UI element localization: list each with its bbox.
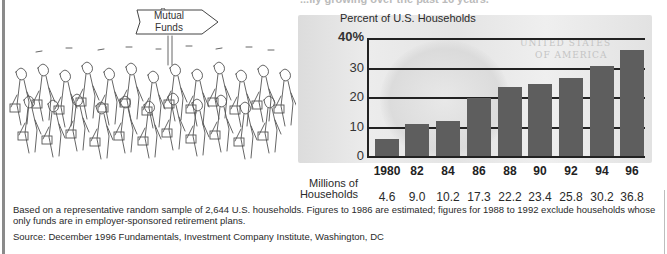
households-label-line2: Households [292, 189, 358, 200]
x-label-92: 92 [556, 164, 586, 178]
households-value-82: 9.0 [402, 190, 432, 204]
x-label-86: 86 [464, 164, 494, 178]
x-label-88: 88 [495, 164, 525, 178]
y-tick-0: 0 [330, 148, 364, 163]
source-citation: Source: December 1996 Fundamentals, Inve… [13, 231, 384, 242]
y-tick-40: 40% [330, 29, 364, 44]
partial-headline: ...ily growing over the past 16 years. [300, 0, 489, 5]
bar-96 [620, 50, 644, 157]
households-value-84: 10.2 [433, 190, 463, 204]
bar-88 [498, 87, 522, 157]
gridline-40 [368, 38, 645, 40]
y-tick-20: 20 [330, 89, 364, 104]
footnote-text: Based on a representative random sample … [13, 204, 658, 226]
bar-90 [528, 84, 552, 157]
x-label-90: 90 [525, 164, 555, 178]
sign-label-line1: Mutual [134, 10, 204, 22]
bill-text-line2: OF AMERICA [535, 50, 608, 60]
households-value-86: 17.3 [464, 190, 494, 204]
sign-label-line2: Funds [134, 22, 204, 34]
bar-94 [590, 66, 614, 157]
households-value-90: 23.4 [525, 190, 555, 204]
y-tick-10: 10 [330, 119, 364, 134]
bar-1980 [375, 139, 399, 157]
households-value-1980: 4.6 [372, 190, 402, 204]
left-border-rule [2, 0, 5, 254]
right-border-rule [664, 190, 665, 254]
sign-label: Mutual Funds [134, 10, 204, 34]
households-value-88: 22.2 [495, 190, 525, 204]
x-label-96: 96 [617, 164, 647, 178]
households-row-label: Millions of Households [292, 178, 358, 200]
bar-92 [559, 78, 583, 157]
bar-86 [467, 98, 491, 158]
y-axis [367, 38, 369, 158]
households-value-96: 36.8 [617, 190, 647, 204]
x-label-82: 82 [402, 164, 432, 178]
x-axis [367, 156, 645, 158]
x-label-1980: 1980 [372, 164, 402, 178]
bar-84 [436, 121, 460, 157]
x-label-84: 84 [433, 164, 463, 178]
households-value-94: 30.2 [587, 190, 617, 204]
bill-text-line1: UNITED STATES [520, 38, 611, 48]
x-label-94: 94 [587, 164, 617, 178]
chart-title: Percent of U.S. Households [340, 12, 476, 24]
households-value-92: 25.8 [556, 190, 586, 204]
y-tick-30: 30 [330, 60, 364, 75]
bar-82 [405, 124, 429, 157]
